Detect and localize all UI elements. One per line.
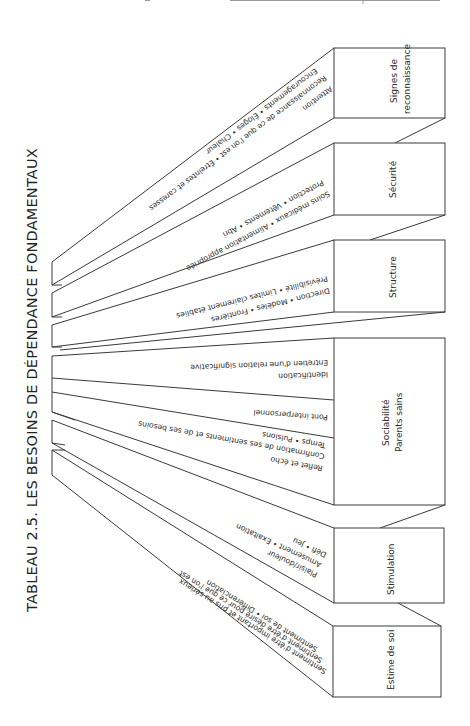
diagram-page: TABLEAU 2.5. LES BESOINS DE DÉPENDANCE F… — [0, 0, 470, 726]
category-label: Structure — [388, 256, 398, 298]
category-label: Stimulation — [386, 544, 396, 595]
need-item: Entretien d'une relation significative — [190, 358, 328, 372]
need-item: Soins médicaux • Alimentation appropriée — [184, 189, 331, 273]
diagram-title: TABLEAU 2.5. LES BESOINS DE DÉPENDANCE F… — [24, 148, 40, 613]
category-label: Signes de — [389, 59, 399, 103]
need-item: Pont interpersonnel — [253, 408, 328, 422]
need-item: Sentiment de soi • Différenciation — [204, 578, 319, 654]
category-label: Sécurité — [388, 160, 398, 198]
need-item: Sentiment d'être important et pris au sé… — [177, 577, 328, 676]
need-item: Identification — [278, 370, 328, 381]
category-label: Parents sains — [394, 392, 404, 452]
need-item: Encouragements • Éloges • Chaleur — [203, 66, 319, 157]
dependency-needs-diagram: TABLEAU 2.5. LES BESOINS DE DÉPENDANCE F… — [0, 0, 470, 726]
category-sociabilite: Sociabilité Parents sains Entretien d'un… — [52, 338, 445, 528]
category-label: Estime de soi — [386, 630, 396, 690]
need-item: Sentiment d'être désiré pour ce que l'on… — [177, 569, 324, 665]
running-header-remnant — [145, 0, 440, 4]
category-label: reconnaissance — [402, 44, 412, 114]
category-structure: Structure Prévisibilité • Limites claire… — [52, 240, 445, 350]
category-label: Sociabilité — [381, 399, 391, 446]
